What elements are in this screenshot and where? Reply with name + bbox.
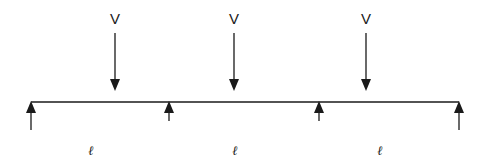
arrowhead-up-icon: [164, 101, 174, 113]
support-right: [454, 101, 464, 130]
load-label: V: [110, 10, 120, 27]
arrowhead-down-icon: [110, 79, 120, 91]
arrowhead-up-icon: [454, 101, 464, 113]
load-2: V: [229, 10, 239, 91]
span-label-2: ℓ: [232, 143, 238, 158]
load-label: V: [229, 10, 239, 27]
support-inner-1: [164, 101, 174, 121]
support-left: [26, 101, 36, 130]
span-label-3: ℓ: [377, 143, 383, 158]
diagram-svg: V V V ℓ: [0, 0, 489, 166]
span-label-1: ℓ: [88, 143, 94, 158]
load-3: V: [361, 10, 371, 91]
arrowhead-down-icon: [229, 79, 239, 91]
support-inner-2: [314, 101, 324, 121]
arrowhead-down-icon: [361, 79, 371, 91]
beam-diagram: V V V ℓ: [0, 0, 489, 166]
load-label: V: [361, 10, 371, 27]
arrowhead-up-icon: [26, 101, 36, 113]
load-1: V: [110, 10, 120, 91]
arrowhead-up-icon: [314, 101, 324, 113]
